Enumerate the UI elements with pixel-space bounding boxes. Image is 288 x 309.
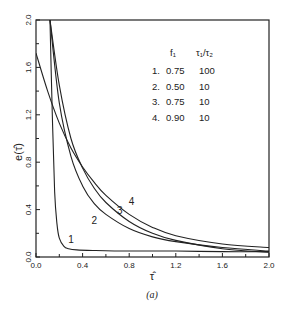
legend-header: τ₁/τ₂ (196, 47, 213, 58)
x-tick-label: 2.0 (263, 261, 275, 270)
y-tick-label: 0.0 (24, 251, 33, 263)
legend-cell: 3. (152, 96, 160, 107)
curve-1 (50, 20, 269, 252)
x-tick-label: 0.8 (124, 261, 136, 270)
legend-cell: 10 (199, 96, 210, 107)
legend-cell: 2. (152, 81, 160, 92)
x-tick-label: 1.6 (217, 261, 229, 270)
curve-2 (50, 20, 269, 251)
legend-cell: 4. (152, 112, 160, 123)
curve-3 (50, 20, 269, 252)
x-axis-tick-labels: 0.00.40.81.21.62.0 (30, 261, 275, 270)
x-axis-label: τ̂ (150, 270, 156, 282)
y-tick-label: 1.2 (24, 109, 33, 121)
y-tick-label: 1.6 (24, 61, 33, 73)
legend-cell: 100 (199, 65, 215, 76)
x-tick-label: 0.4 (77, 261, 89, 270)
curve-labels: 1234 (68, 196, 135, 245)
data-curves (36, 20, 269, 252)
y-axis-label: e(τ̂) (12, 143, 24, 161)
figure-caption: (a) (146, 289, 158, 301)
y-tick-label: 0.4 (24, 203, 33, 215)
x-tick-label: 1.2 (170, 261, 182, 270)
legend-cell: 0.75 (166, 65, 185, 76)
chart: 0.00.40.81.21.62.0 0.00.40.81.21.62.0 12… (0, 0, 288, 309)
y-tick-label: 0.8 (24, 156, 33, 168)
legend-cell: 10 (199, 112, 210, 123)
legend-cell: 1. (152, 65, 160, 76)
legend-header: f₁ (170, 47, 176, 58)
curve-label-2: 2 (91, 215, 97, 226)
legend-cell: 10 (199, 81, 210, 92)
y-tick-label: 2.0 (24, 14, 33, 26)
y-axis-tick-labels: 0.00.40.81.21.62.0 (24, 14, 33, 263)
curve-label-4: 4 (129, 196, 135, 207)
legend-cell: 0.50 (166, 81, 185, 92)
curve-label-1: 1 (68, 234, 74, 245)
curve-label-3: 3 (117, 205, 123, 216)
legend-cell: 0.75 (166, 96, 185, 107)
legend-cell: 0.90 (166, 112, 185, 123)
legend: f₁τ₁/τ₂1.0.751002.0.50103.0.75104.0.9010 (152, 47, 215, 123)
